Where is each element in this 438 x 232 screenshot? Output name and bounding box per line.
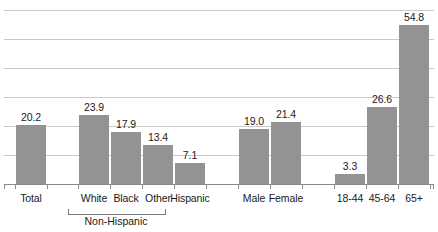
axis-tick [206,185,207,189]
bar-18-44 [335,174,365,184]
axis-tick-end [433,185,434,189]
bar-value-hispanic: 7.1 [169,149,211,161]
group-bracket-label: Non-Hispanic [68,215,164,227]
bar-value-45-64: 26.6 [361,93,403,105]
gridline-40 [4,68,434,69]
axis-tick [174,185,175,189]
axis-tick [398,185,399,189]
axis-tick [47,185,48,189]
x-label-female: Female [262,192,310,204]
bar-value-other: 13.4 [137,131,179,143]
axis-tick [334,185,335,189]
x-label-hispanic: Hispanic [166,192,214,204]
bar-hispanic [175,163,205,184]
axis-tick [270,185,271,189]
axis-tick [366,185,367,189]
bar-65- [399,25,429,184]
axis-tick [78,185,79,189]
axis-tick [430,185,431,189]
bar-value-65-: 54.8 [393,11,435,23]
bar-value-total: 20.2 [10,111,52,123]
bar-value-black: 17.9 [105,118,147,130]
axis-tick [110,185,111,189]
axis-tick [142,185,143,189]
x-label-total: Total [7,192,55,204]
x-axis-line [4,184,434,185]
bar-value-white: 23.9 [73,101,115,113]
bar-value-18-44: 3.3 [329,160,371,172]
bar-male [239,129,269,184]
bar-total [16,125,46,184]
bar-chart: 20.223.917.913.47.119.021.43.326.654.8 T… [0,0,438,232]
gridline-60 [4,10,434,11]
gridline-50 [4,39,434,40]
bar-female [271,122,301,184]
plot-area: 20.223.917.913.47.119.021.43.326.654.8 [0,0,438,185]
axis-tick [302,185,303,189]
x-label-65-: 65+ [390,192,438,204]
axis-tick [238,185,239,189]
bar-45-64 [367,107,397,184]
axis-tick-end [4,185,5,189]
bar-value-female: 21.4 [265,108,307,120]
axis-tick [15,185,16,189]
